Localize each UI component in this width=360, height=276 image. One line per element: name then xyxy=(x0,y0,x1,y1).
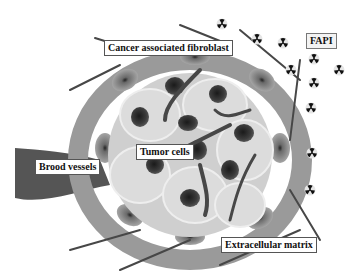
label-tumor-cells: Tumor cells xyxy=(136,144,194,160)
radiation-icon xyxy=(309,78,320,89)
radiation-icon xyxy=(306,103,317,114)
tumor-microenvironment-diagram: Cancer associated fibroblast FAPI Tumor … xyxy=(0,0,360,276)
radiation-icon xyxy=(309,54,320,65)
label-extracellular-matrix: Extracellular matrix xyxy=(221,237,317,253)
radiation-icon xyxy=(307,148,318,159)
radiation-icon xyxy=(278,38,289,49)
radiation-icon xyxy=(334,65,345,76)
label-blood-vessels: Brood vessels xyxy=(35,159,100,175)
radiation-icon xyxy=(252,34,263,45)
radiation-icon xyxy=(305,185,316,196)
label-cancer-associated-fibroblast: Cancer associated fibroblast xyxy=(104,40,233,56)
radiation-icon xyxy=(217,19,228,30)
label-fapi: FAPI xyxy=(306,33,337,49)
radiation-icon xyxy=(286,65,297,76)
